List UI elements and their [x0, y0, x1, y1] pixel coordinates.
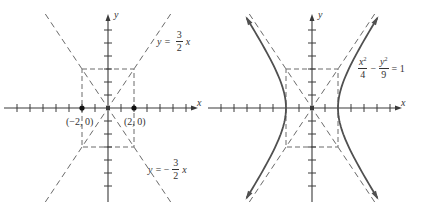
- fraction-denominator: 2: [173, 170, 178, 181]
- term1-numerator: x2: [358, 57, 367, 69]
- asymptote-fraction: 3 2: [176, 30, 183, 53]
- point-label-pos2: (2, 0): [124, 117, 146, 127]
- equation-operator: −: [370, 64, 376, 74]
- term2-exponent: 2: [385, 56, 388, 62]
- y-axis-label: y: [318, 10, 322, 20]
- hyperbola-equation: x2 4 − y2 9 = 1: [357, 57, 405, 80]
- fraction-numerator: 3: [176, 30, 183, 42]
- equation-term2: y2 9: [379, 57, 388, 80]
- point-label-neg2: (−2, 0): [66, 117, 93, 127]
- x-axis-label: x: [197, 98, 201, 108]
- origin-marker: [310, 106, 314, 110]
- y-axis-label: y: [114, 10, 118, 20]
- term2-numerator: y2: [379, 57, 388, 69]
- asymptote-lhs: y =: [148, 165, 162, 175]
- asymptote-fraction: 3 2: [172, 158, 179, 181]
- vertex-point: [131, 105, 136, 110]
- asymptote-var: x: [182, 165, 186, 175]
- term2-denominator: 9: [381, 69, 386, 80]
- asymptote-sign: −: [164, 165, 170, 175]
- hyperbola-diagram-svg: [211, 0, 422, 215]
- term1-exponent: 2: [363, 56, 366, 62]
- equation-rhs: = 1: [392, 64, 405, 74]
- asymptote-diagram-panel: y x (−2, 0) (2, 0) y = 3 2 x y = − 3 2 x: [0, 0, 211, 215]
- asymptote-label-positive: y = 3 2 x: [157, 30, 190, 53]
- asymptote-label-negative: y = − 3 2 x: [148, 158, 187, 181]
- term1-denominator: 4: [360, 69, 365, 80]
- hyperbola-diagram-panel: y x x2 4 − y2 9 = 1: [211, 0, 422, 215]
- vertex-point: [79, 105, 84, 110]
- y-axis-arrow-icon: [106, 14, 111, 21]
- x-axis-label: x: [401, 98, 405, 108]
- asymptote-lhs: y =: [157, 37, 171, 47]
- origin-marker: [106, 106, 110, 110]
- fraction-denominator: 2: [177, 42, 182, 53]
- asymptote-var: x: [186, 37, 190, 47]
- fraction-numerator: 3: [172, 158, 179, 170]
- equation-term1: x2 4: [358, 57, 367, 80]
- y-axis-arrow-icon: [310, 14, 315, 21]
